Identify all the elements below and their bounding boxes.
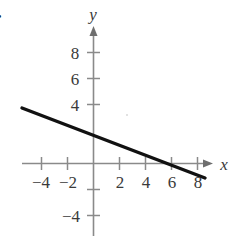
y-tick-label-4: 4 [71, 96, 80, 115]
x-tick-label-neg4: −4 [32, 173, 51, 192]
scan-speck [126, 114, 128, 116]
x-axis-label: x [219, 155, 228, 174]
graph-figure: . −4 −2 2 4 6 8 8 6 4 −4 [0, 0, 235, 247]
x-tick-label-6: 6 [168, 173, 177, 192]
y-tick-label-neg4: −4 [62, 207, 81, 226]
x-tick-label-4: 4 [142, 173, 151, 192]
x-tick-label-neg2: −2 [59, 173, 77, 192]
x-axis-arrow-icon [203, 160, 213, 168]
coordinate-plane: −4 −2 2 4 6 8 8 6 4 −4 y x [0, 0, 235, 247]
y-tick-label-8: 8 [71, 44, 80, 63]
y-tick-label-6: 6 [71, 70, 80, 89]
y-axis-label: y [87, 5, 97, 24]
x-tick-label-8: 8 [194, 173, 203, 192]
y-axis-arrow-icon [90, 26, 98, 36]
problem-number-marker: . [0, 2, 2, 21]
x-tick-label-2: 2 [116, 173, 125, 192]
plotted-line [22, 108, 205, 178]
